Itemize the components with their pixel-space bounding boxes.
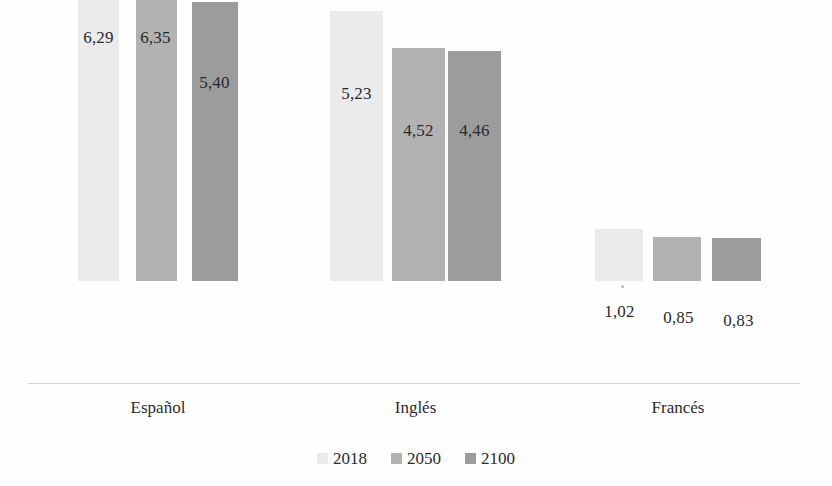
scan-artifact-speck [621, 285, 624, 288]
category-label-espanol: Español [78, 398, 238, 418]
bar-ingles-2018[interactable] [330, 11, 383, 281]
category-axis-line [28, 383, 800, 384]
legend-swatch-2100-icon [465, 453, 476, 464]
legend-label-2050: 2050 [407, 450, 441, 467]
bar-chart: 6,29 6,35 5,40 5,23 4,52 4,46 1,02 0,85 … [0, 0, 832, 486]
legend-item-2050[interactable]: 2050 [391, 450, 441, 467]
bar-frances-2018[interactable] [595, 229, 643, 281]
bar-frances-2050[interactable] [653, 237, 701, 281]
value-label-frances-2100: 0,83 [700, 311, 777, 331]
category-label-frances: Francés [595, 398, 761, 418]
value-label-espanol-2100: 5,40 [176, 73, 253, 93]
chart-legend: 2018 2050 2100 [0, 450, 832, 467]
legend-swatch-2018-icon [317, 453, 328, 464]
bar-group-frances [595, 0, 761, 281]
legend-item-2018[interactable]: 2018 [317, 450, 367, 467]
bar-espanol-2100[interactable] [192, 2, 238, 281]
plot-area: 6,29 6,35 5,40 5,23 4,52 4,46 1,02 0,85 … [0, 0, 832, 384]
legend-swatch-2050-icon [391, 453, 402, 464]
legend-item-2100[interactable]: 2100 [465, 450, 515, 467]
legend-label-2018: 2018 [333, 450, 367, 467]
bar-ingles-2050[interactable] [392, 48, 445, 281]
value-label-ingles-2100: 4,46 [436, 121, 513, 141]
category-label-ingles: Inglés [330, 398, 501, 418]
value-label-ingles-2018: 5,23 [318, 84, 395, 104]
bar-ingles-2100[interactable] [448, 51, 501, 281]
legend-label-2100: 2100 [481, 450, 515, 467]
bar-frances-2100[interactable] [712, 238, 761, 281]
value-label-espanol-2050: 6,35 [117, 28, 194, 48]
